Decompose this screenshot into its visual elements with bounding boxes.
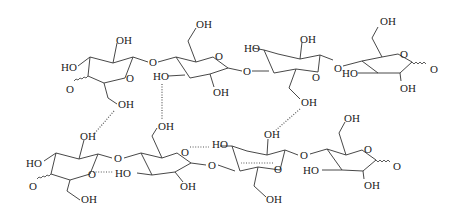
bottom-link-o-1: O bbox=[114, 152, 122, 164]
bottom-r1-oh-top: OH bbox=[80, 130, 96, 142]
bottom-r3-ho: HO bbox=[212, 138, 228, 150]
top-r4-ch2oh: OH bbox=[380, 15, 396, 27]
bottom-r2-ho: HO bbox=[115, 167, 131, 179]
bottom-r4-ch2oh: OH bbox=[344, 112, 360, 124]
bottom-r2-ch2oh: OH bbox=[158, 120, 174, 132]
top-r3-oh-top: OH bbox=[300, 33, 316, 45]
bottom-r3-ch2oh: OH bbox=[266, 193, 282, 205]
top-r3-ch2oh: OH bbox=[301, 96, 317, 108]
top-r1-oh-top: OH bbox=[116, 34, 132, 46]
bottom-r3-ring-o: O bbox=[274, 163, 282, 175]
bottom-left-end-o: O bbox=[29, 180, 37, 192]
bottom-ring-1 bbox=[37, 140, 112, 200]
top-r3-ring-o: O bbox=[312, 71, 320, 83]
top-ring-2 bbox=[158, 28, 242, 87]
bottom-right-end-o: O bbox=[393, 160, 401, 172]
top-r4-ho: HO bbox=[342, 67, 358, 79]
top-ring-3 bbox=[252, 42, 333, 99]
top-link-o-2: O bbox=[243, 65, 251, 77]
bottom-r4-ho: HO bbox=[303, 164, 319, 176]
bottom-ring-2 bbox=[124, 128, 206, 182]
cellulose-structure-diagram: OH HO O O OH O OH O HO OH O OH HO O OH O bbox=[0, 0, 458, 219]
structure-svg: OH HO O O OH O OH O HO OH O OH HO O OH O bbox=[0, 0, 458, 219]
top-r4-ring-o: O bbox=[400, 48, 408, 60]
top-r1-ch2oh: OH bbox=[118, 98, 134, 110]
bottom-r2-oh-bottom: OH bbox=[180, 180, 196, 192]
bottom-r1-ho-left: HO bbox=[26, 157, 42, 169]
bottom-r2-ring-o: O bbox=[181, 146, 189, 158]
top-r1-ho-left: HO bbox=[61, 61, 77, 73]
top-right-end-o: O bbox=[430, 63, 438, 75]
bottom-link-o-2: O bbox=[208, 159, 216, 171]
top-ring-1 bbox=[74, 43, 148, 104]
bottom-ring-4 bbox=[310, 122, 390, 179]
top-r2-ring-o: O bbox=[215, 50, 223, 62]
bottom-r1-ring-o: O bbox=[88, 168, 96, 180]
top-left-end-o: O bbox=[66, 83, 74, 95]
top-r4-oh-bottom: OH bbox=[400, 82, 416, 94]
bottom-r1-ch2oh: OH bbox=[81, 193, 97, 205]
top-r1-ring-o: O bbox=[126, 72, 134, 84]
bottom-r3-oh-top: OH bbox=[264, 128, 280, 140]
bottom-r4-ring-o: O bbox=[364, 143, 372, 155]
bottom-ring-3 bbox=[218, 139, 298, 197]
top-link-o-3: O bbox=[334, 62, 342, 74]
top-r2-oh-bottom: OH bbox=[213, 86, 229, 98]
bottom-link-o-3: O bbox=[300, 149, 308, 161]
top-link-o-1: O bbox=[149, 56, 157, 68]
top-r2-ch2oh: OH bbox=[196, 18, 212, 30]
top-r3-ho: HO bbox=[244, 42, 260, 54]
top-r2-ho: HO bbox=[153, 70, 169, 82]
bottom-r4-oh-bottom: OH bbox=[364, 179, 380, 191]
